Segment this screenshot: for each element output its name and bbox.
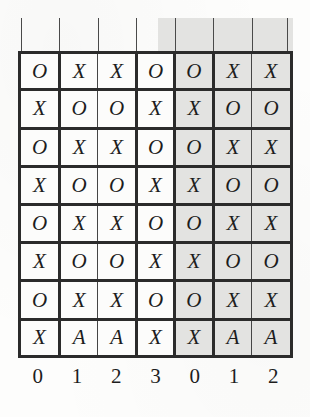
column-label: 0 [175,362,214,392]
grid-cell[interactable]: X [136,166,174,204]
column-label: 1 [57,362,96,392]
grid-row: OXXOOXX [21,281,290,319]
grid-cell[interactable]: A [252,319,290,355]
grid-cell[interactable]: X [213,128,251,166]
grid-cell[interactable]: A [59,319,97,355]
grid-cell[interactable]: O [21,281,59,319]
grid-cell[interactable]: O [175,54,213,90]
column-label: 2 [97,362,136,392]
grid-cell[interactable]: X [21,90,59,128]
column-label: 2 [254,362,293,392]
grid-cell[interactable]: O [252,90,290,128]
grid-cell[interactable]: X [98,54,136,90]
column-tick-riser [98,18,99,51]
grid-cell[interactable]: O [21,54,59,90]
grid-cell[interactable]: O [98,166,136,204]
grid-cell[interactable]: X [59,128,97,166]
grid-cell[interactable]: O [59,243,97,281]
grid-row: XAAXXAA [21,319,290,355]
grid-cell[interactable]: X [136,319,174,355]
column-tick-riser [175,18,176,51]
grid-cell[interactable]: X [59,281,97,319]
column-label: 1 [214,362,253,392]
grid-row: XOOXXOO [21,166,290,204]
column-label: 3 [136,362,175,392]
column-tick-riser [21,18,22,51]
grid-cell[interactable]: X [175,243,213,281]
grid-cell[interactable]: O [98,90,136,128]
grid-cell[interactable]: X [59,204,97,242]
column-tick-riser [252,18,253,51]
column-label: 0 [18,362,57,392]
grid-cell[interactable]: X [21,243,59,281]
game-grid: OXXOOXXXOOXXOOOXXOOXXXOOXXOOOXXOOXXXOOXX… [18,51,293,358]
grid-cell[interactable]: A [213,319,251,355]
grid-cell-table: OXXOOXXXOOXXOOOXXOOXXXOOXXOOOXXOOXXXOOXX… [21,54,290,355]
grid-cell[interactable]: O [213,166,251,204]
figure-panel: OXXOOXXXOOXXOOOXXOOXXXOOXXOOOXXOOXXXOOXX… [0,0,310,417]
grid-cell[interactable]: X [213,54,251,90]
grid-cell[interactable]: O [21,204,59,242]
grid-cell[interactable]: X [136,90,174,128]
grid-cell[interactable]: O [59,166,97,204]
grid-row: OXXOOXX [21,128,290,166]
column-tick-riser [59,18,60,51]
grid-cell[interactable]: O [136,128,174,166]
grid-cell[interactable]: O [175,128,213,166]
grid-cell[interactable]: X [98,204,136,242]
column-tick-riser [213,18,214,51]
grid-cell[interactable]: O [136,281,174,319]
grid-cell[interactable]: X [175,90,213,128]
grid-cell[interactable]: O [136,54,174,90]
grid-cell[interactable]: X [21,319,59,355]
grid-cell[interactable]: X [213,281,251,319]
column-tick-riser [136,18,137,51]
grid-cell[interactable]: X [136,243,174,281]
grid-cell[interactable]: O [136,204,174,242]
grid-cell[interactable]: O [252,243,290,281]
grid-cell[interactable]: X [252,128,290,166]
grid-cell[interactable]: O [21,128,59,166]
grid-cell[interactable]: X [98,128,136,166]
grid-row: OXXOOXX [21,54,290,90]
grid-cell[interactable]: O [98,243,136,281]
grid-row: XOOXXOO [21,90,290,128]
grid-cell[interactable]: X [175,166,213,204]
grid-cell[interactable]: O [175,204,213,242]
grid-cell[interactable]: X [21,166,59,204]
grid-cell[interactable]: X [213,204,251,242]
grid-cell[interactable]: O [213,90,251,128]
grid-cell[interactable]: O [213,243,251,281]
grid-row: OXXOOXX [21,204,290,242]
grid-cell[interactable]: O [175,281,213,319]
grid-cell[interactable]: A [98,319,136,355]
grid-cell[interactable]: X [175,319,213,355]
grid-cell[interactable]: O [59,90,97,128]
grid-cell[interactable]: X [252,54,290,90]
grid-cell[interactable]: X [252,204,290,242]
grid-row: XOOXXOO [21,243,290,281]
upper-shaded-band [158,18,293,51]
column-tick-riser [287,18,288,51]
grid-cell[interactable]: X [98,281,136,319]
grid-cell[interactable]: X [252,281,290,319]
grid-cell[interactable]: X [59,54,97,90]
grid-cell[interactable]: O [252,166,290,204]
column-label-row: 0123012 [18,362,293,392]
